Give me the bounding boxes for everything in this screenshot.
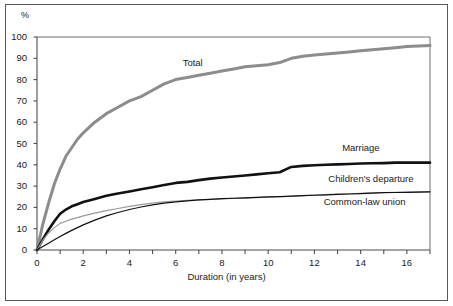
x-tick-label: 16	[395, 258, 419, 267]
series-label-common-law-union: Common-law union	[324, 196, 406, 207]
series-label-marriage: Marriage	[342, 142, 380, 153]
x-tick-label: 8	[210, 258, 234, 267]
x-tick-label: 14	[349, 258, 373, 267]
x-tick-label: 0	[25, 258, 49, 267]
x-tick-label: 4	[117, 258, 141, 267]
y-tick-label: 20	[3, 202, 27, 211]
x-axis-title: Duration (in years)	[0, 271, 453, 282]
chart-stage: % 0102030405060708090100 0246810121416 T…	[0, 0, 453, 306]
x-tick-label: 2	[71, 258, 95, 267]
x-tick-label: 12	[302, 258, 326, 267]
y-tick-label: 60	[3, 117, 27, 126]
figure-container: % 0102030405060708090100 0246810121416 T…	[0, 0, 453, 306]
y-tick-label: 30	[3, 181, 27, 190]
y-tick-label: 40	[3, 160, 27, 169]
y-tick-label: 70	[3, 96, 27, 105]
series-label-children-s-departure: Children's departure	[328, 173, 413, 184]
y-tick-label: 90	[3, 53, 27, 62]
x-tick-label: 10	[256, 258, 280, 267]
y-tick-label: 0	[3, 245, 27, 254]
series-label-total: Total	[183, 57, 203, 68]
y-tick-label: 10	[3, 224, 27, 233]
y-tick-label: 80	[3, 75, 27, 84]
y-tick-label: 100	[3, 32, 27, 41]
x-tick-label: 6	[164, 258, 188, 267]
y-tick-label: 50	[3, 139, 27, 148]
